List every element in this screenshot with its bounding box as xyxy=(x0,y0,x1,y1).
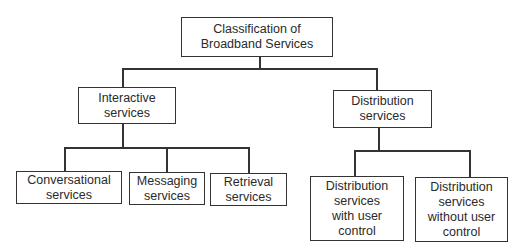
root-node-line-1: Classification of xyxy=(213,22,301,37)
messaging-line-1: Messaging xyxy=(137,174,197,189)
connector-interactive-children-bar xyxy=(64,147,249,149)
distribution-line-1: Distribution xyxy=(351,94,414,109)
messaging-line-2: services xyxy=(144,189,190,204)
without-control-line-4: control xyxy=(443,225,481,240)
interactive-services-box: Interactive services xyxy=(78,87,176,124)
with-control-line-4: control xyxy=(338,224,376,239)
without-control-line-3: without user xyxy=(428,210,495,225)
retrieval-services-box: Retrieval services xyxy=(210,173,287,206)
interactive-line-2: services xyxy=(104,106,150,121)
retrieval-line-2: services xyxy=(226,190,272,205)
conversational-line-1: Conversational xyxy=(27,173,110,188)
connector-to-with-user-control xyxy=(354,150,356,176)
root-node-box: Classification of Broadband Services xyxy=(181,17,333,57)
root-node-line-2: Broadband Services xyxy=(201,37,314,52)
connector-to-retrieval xyxy=(248,147,250,173)
distribution-services-box: Distribution services xyxy=(333,90,432,128)
without-control-line-1: Distribution xyxy=(430,180,493,195)
connector-distribution-children-bar xyxy=(354,150,470,152)
without-control-line-2: services xyxy=(439,195,485,210)
messaging-services-box: Messaging services xyxy=(129,172,205,205)
with-control-line-2: services xyxy=(334,194,380,209)
with-control-line-3: with user xyxy=(332,209,382,224)
distribution-with-user-control-box: Distribution services with user control xyxy=(310,176,404,241)
retrieval-line-1: Retrieval xyxy=(224,175,273,190)
connector-to-distribution xyxy=(376,68,378,90)
with-control-line-1: Distribution xyxy=(326,179,389,194)
interactive-line-1: Interactive xyxy=(98,91,156,106)
connector-interactive-down xyxy=(122,124,124,148)
distribution-line-2: services xyxy=(360,109,406,124)
distribution-without-user-control-box: Distribution services without user contr… xyxy=(415,177,508,242)
connector-to-without-user-control xyxy=(469,150,471,177)
connector-to-interactive xyxy=(122,68,124,87)
connector-to-conversational xyxy=(64,147,66,171)
connector-to-messaging xyxy=(166,147,168,172)
connector-level1-bar xyxy=(122,68,377,70)
connector-distribution-down xyxy=(378,128,380,151)
conversational-services-box: Conversational services xyxy=(16,171,122,204)
conversational-line-2: services xyxy=(46,188,92,203)
